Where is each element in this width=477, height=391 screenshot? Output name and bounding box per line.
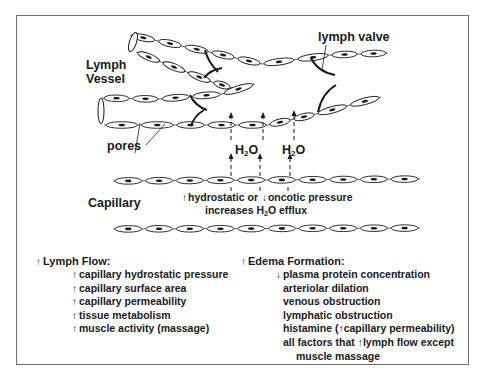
up-arrow-icon: ↑ (181, 191, 188, 204)
cell-nucleus (249, 124, 255, 127)
cell-nucleus (340, 227, 346, 230)
list-item: muscle massage (276, 350, 455, 364)
down-arrow-icon: ↓ (276, 268, 283, 282)
lymph-flow-list: ↑capillary hydrostatic pressure↑capillar… (72, 268, 228, 336)
cell-nucleus (248, 227, 254, 230)
list-item: all factors that ↑lymph flow except (276, 336, 455, 350)
up-arrow-icon: ↑ (72, 309, 79, 323)
h2o-label-right: H2O (282, 143, 305, 158)
list-item: arteriolar dilation (276, 282, 455, 296)
cell-nucleus (217, 227, 223, 230)
down-arrow-icon: ↓ (261, 191, 268, 204)
lower-vessel-end-cap (98, 98, 104, 124)
cell-nucleus (156, 227, 162, 230)
cell-nucleus (187, 227, 193, 230)
lymph-flow-heading: ↑Lymph Flow: (36, 255, 110, 267)
up-arrow-icon: ↑ (72, 295, 79, 309)
caption-line-1: ↑hydrostatic or ↓oncotic pressure (181, 191, 331, 204)
list-item: ↑tissue metabolism (72, 309, 228, 323)
edema-formation-list: ↓plasma protein concentrationarteriolar … (276, 268, 455, 363)
cell-nucleus (401, 227, 407, 230)
cell-nucleus (371, 227, 377, 230)
caption-line-2: increases H2O efflux (181, 204, 331, 220)
list-item: ↓plasma protein concentration (276, 268, 455, 282)
lymph-vessel-label: Lymph Vessel (86, 58, 127, 86)
h2o-label-left: H2O (235, 143, 258, 158)
upper-vessel-end-cap (127, 31, 140, 52)
pressure-caption: ↑hydrostatic or ↓oncotic pressure increa… (181, 191, 331, 220)
cell-nucleus (119, 124, 125, 127)
list-item: ↑muscle activity (massage) (72, 322, 228, 336)
cell-nucleus (154, 124, 160, 127)
capillary-top-wall (113, 176, 420, 185)
list-item: histamine (↑capillary permeability) (276, 322, 455, 336)
capillary-label: Capillary (88, 196, 141, 210)
cell-nucleus (218, 124, 224, 127)
up-arrow-icon: ↑ (72, 268, 79, 282)
up-arrow-icon: ↑ (72, 322, 79, 336)
up-arrow-icon: ↑ (36, 256, 43, 267)
lymph-valve-label: lymph valve (318, 30, 390, 44)
list-item: ↑capillary hydrostatic pressure (72, 268, 228, 282)
edema-formation-heading: ↑Edema Formation: (241, 255, 345, 267)
cell-nucleus (309, 227, 315, 230)
cell-nucleus (279, 227, 285, 230)
list-item: ↑capillary surface area (72, 282, 228, 296)
up-arrow-icon: ↑ (241, 256, 248, 267)
up-arrow-icon: ↑ (72, 282, 79, 296)
cell-nucleus (125, 228, 131, 231)
pores-label: pores (107, 139, 141, 153)
list-item: ↑capillary permeability (72, 295, 228, 309)
list-item: venous obstruction (276, 295, 455, 309)
list-item: lymphatic obstruction (276, 309, 455, 323)
capillary-bottom-wall (113, 225, 420, 232)
